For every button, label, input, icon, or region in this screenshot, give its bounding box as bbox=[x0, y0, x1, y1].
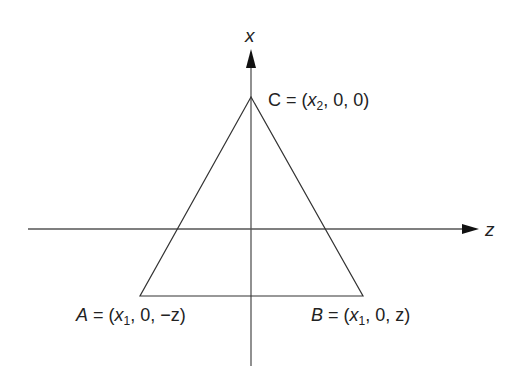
z-axis-arrowhead-icon bbox=[462, 224, 479, 234]
point-b-name: B bbox=[311, 305, 323, 325]
x-axis-arrowhead-icon bbox=[246, 49, 256, 68]
point-a-eq: = ( bbox=[88, 305, 115, 325]
point-b-label: B = (x1, 0, z) bbox=[311, 305, 410, 328]
point-b-rest: , 0, z) bbox=[365, 305, 410, 325]
point-a-label: A = (x1, 0, −z) bbox=[75, 305, 186, 328]
point-c-name: C bbox=[268, 90, 281, 110]
point-a-name: A bbox=[75, 305, 88, 325]
point-c-eq: = ( bbox=[281, 90, 308, 110]
z-axis-label: z bbox=[484, 219, 495, 240]
x-axis-label: x bbox=[244, 25, 256, 46]
point-a-rest: , 0, −z) bbox=[130, 305, 186, 325]
point-c-label: C = (x2, 0, 0) bbox=[268, 90, 369, 113]
point-b-eq: = ( bbox=[323, 305, 350, 325]
triangle-coordinate-diagram: z x C = (x2, 0, 0) A = (x1, 0, −z) B = (… bbox=[0, 0, 522, 380]
point-c-rest: , 0, 0) bbox=[323, 90, 369, 110]
